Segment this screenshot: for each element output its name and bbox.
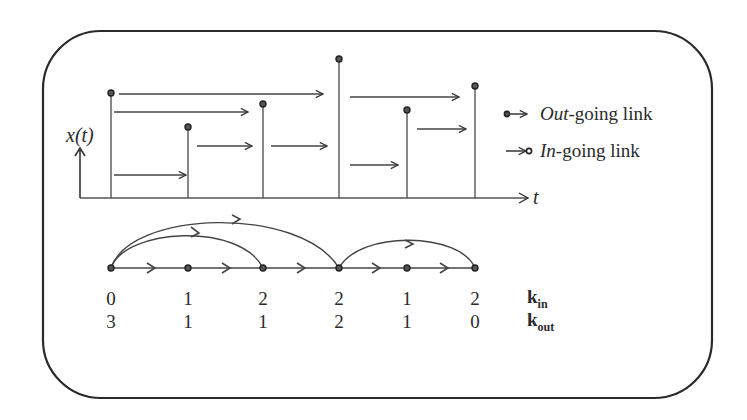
k-in-value: 2 (334, 288, 344, 310)
k-out-value: 2 (334, 311, 344, 333)
k-out-value: 0 (470, 311, 480, 333)
x-axis-label: t (533, 187, 539, 207)
k-out-label: kout (527, 310, 554, 333)
in-going-link-marker (506, 148, 532, 153)
k-out-value: 1 (183, 311, 193, 333)
legend-out-italic: Out (540, 103, 569, 124)
visibility-arrows (114, 94, 466, 175)
y-axis-arrow (75, 148, 85, 198)
graph-baseline (111, 263, 475, 273)
k-in-value: 2 (470, 288, 480, 310)
k-in-label: kin (527, 287, 548, 310)
graph-arcs (111, 223, 475, 268)
legend-in-rest: -going link (556, 140, 640, 161)
legend-in-italic: In (540, 140, 556, 161)
k-out-value: 1 (402, 311, 412, 333)
figure-canvas (0, 0, 747, 420)
legend-in-going: In-going link (540, 141, 640, 160)
y-axis-label: x(t) (66, 125, 94, 145)
k-in-value: 0 (106, 288, 116, 310)
k-in-value: 2 (258, 288, 268, 310)
stem-top-dots (108, 56, 478, 130)
visibility-graph-figure: x(t) t Out-going link In-going link 0 1 … (0, 0, 747, 420)
x-axis-arrow (80, 193, 528, 203)
legend-out-going: Out-going link (540, 104, 652, 123)
frame-border (43, 31, 712, 398)
legend-out-rest: -going link (569, 103, 653, 124)
out-going-link-marker (504, 111, 527, 116)
k-out-value: 3 (106, 311, 116, 333)
k-in-value: 1 (183, 288, 193, 310)
k-out-value: 1 (258, 311, 268, 333)
k-in-value: 1 (402, 288, 412, 310)
